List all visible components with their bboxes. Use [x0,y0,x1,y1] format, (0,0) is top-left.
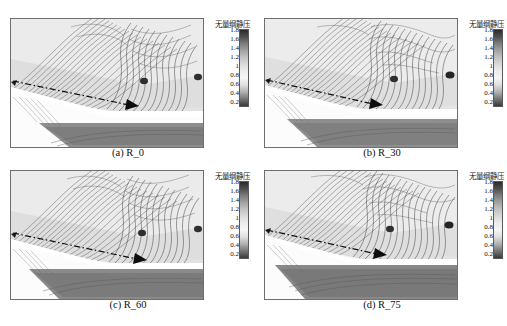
colorbar-tick: 1.8 [484,27,493,34]
colorbar-tick: 0.8 [230,224,239,231]
colorbar-tick: 1.4 [230,45,239,52]
contour-plot-a [10,18,204,148]
colorbar-tick: 1.4 [484,45,493,52]
colorbar-tick: 1 [490,63,494,70]
colorbar-tick: 1 [236,215,240,222]
figure-root: 无量纲静压 1.8 1.6 1.4 1.2 1 0.8 0.6 0.4 0 [0,0,507,326]
contour-svg-d [265,171,457,299]
colorbar-body-c: 1.8 1.6 1.4 1.2 1 0.8 0.6 0.4 0.2 [203,181,249,257]
colorbar-gradient-a [239,29,249,107]
colorbar-tick: 1.2 [484,206,493,213]
plot-area-d: 无量纲静压 1.8 1.6 1.4 1.2 1 0.8 0.6 0.4 0 [258,168,506,299]
colorbar-tick: 1.8 [230,179,239,186]
colorbar-tick: 1.8 [484,179,493,186]
colorbar-tick: 1.4 [484,197,493,204]
colorbar-tick: 0.6 [230,81,239,88]
colorbar-tick: 1.6 [230,36,239,43]
subplot-caption-c: (c) R_60 [4,299,252,310]
colorbar-a: 无量纲静压 1.8 1.6 1.4 1.2 1 0.8 0.6 0.4 0 [202,18,250,146]
colorbar-tick: 0.2 [230,251,239,258]
colorbar-tick: 1 [490,215,494,222]
subplot-grid: 无量纲静压 1.8 1.6 1.4 1.2 1 0.8 0.6 0.4 0 [0,16,507,322]
subplot-caption-d: (d) R_75 [258,299,506,310]
colorbar-tick: 0.4 [230,242,239,249]
colorbar-gradient-c [239,181,249,259]
colorbar-c: 无量纲静压 1.8 1.6 1.4 1.2 1 0.8 0.6 0.4 0 [202,170,250,298]
plot-area-c: 无量纲静压 1.8 1.6 1.4 1.2 1 0.8 0.6 0.4 0 [4,168,252,299]
subplot-panel-c: 无量纲静压 1.8 1.6 1.4 1.2 1 0.8 0.6 0.4 0 [4,168,252,316]
colorbar-ticks-b: 1.8 1.6 1.4 1.2 1 0.8 0.6 0.4 0.2 [459,27,493,107]
colorbar-tick: 1.2 [230,206,239,213]
colorbar-gradient-b [493,29,503,107]
colorbar-body-d: 1.8 1.6 1.4 1.2 1 0.8 0.6 0.4 0.2 [457,181,503,257]
colorbar-tick: 0.6 [484,233,493,240]
colorbar-ticks-a: 1.8 1.6 1.4 1.2 1 0.8 0.6 0.4 0.2 [205,27,239,107]
contour-svg-c [11,171,203,299]
colorbar-tick: 0.8 [484,72,493,79]
subplot-panel-b: 无量纲静压 1.8 1.6 1.4 1.2 1 0.8 0.6 0.4 0 [258,16,506,164]
colorbar-ticks-d: 1.8 1.6 1.4 1.2 1 0.8 0.6 0.4 0.2 [459,179,493,259]
colorbar-tick: 0.6 [230,233,239,240]
colorbar-tick: 1 [236,63,240,70]
subplot-panel-a: 无量纲静压 1.8 1.6 1.4 1.2 1 0.8 0.6 0.4 0 [4,16,252,164]
colorbar-tick: 1.2 [230,54,239,61]
colorbar-tick: 0.2 [484,99,493,106]
colorbar-tick: 1.8 [230,27,239,34]
subplot-panel-d: 无量纲静压 1.8 1.6 1.4 1.2 1 0.8 0.6 0.4 0 [258,168,506,316]
colorbar-d: 无量纲静压 1.8 1.6 1.4 1.2 1 0.8 0.6 0.4 0 [456,170,504,298]
colorbar-tick: 0.4 [484,90,493,97]
colorbar-tick: 1.6 [484,188,493,195]
contour-svg-b [265,19,457,147]
colorbar-tick: 0.4 [484,242,493,249]
colorbar-tick: 0.8 [230,72,239,79]
clipped-header-text [0,0,507,11]
subplot-caption-b: (b) R_30 [258,147,506,158]
plot-area-a: 无量纲静压 1.8 1.6 1.4 1.2 1 0.8 0.6 0.4 0 [4,16,252,147]
contour-plot-c [10,170,204,300]
colorbar-tick: 1.2 [484,54,493,61]
colorbar-body-b: 1.8 1.6 1.4 1.2 1 0.8 0.6 0.4 0.2 [457,29,503,105]
subplot-caption-a: (a) R_0 [4,147,252,158]
colorbar-tick: 0.4 [230,90,239,97]
colorbar-tick: 0.8 [484,224,493,231]
colorbar-gradient-d [493,181,503,259]
plot-area-b: 无量纲静压 1.8 1.6 1.4 1.2 1 0.8 0.6 0.4 0 [258,16,506,147]
colorbar-tick: 0.2 [484,251,493,258]
colorbar-b: 无量纲静压 1.8 1.6 1.4 1.2 1 0.8 0.6 0.4 0 [456,18,504,146]
contour-plot-b [264,18,458,148]
colorbar-body-a: 1.8 1.6 1.4 1.2 1 0.8 0.6 0.4 0.2 [203,29,249,105]
colorbar-tick: 0.2 [230,99,239,106]
contour-plot-d [264,170,458,300]
colorbar-tick: 1.6 [230,188,239,195]
colorbar-tick: 1.4 [230,197,239,204]
colorbar-tick: 1.6 [484,36,493,43]
colorbar-tick: 0.6 [484,81,493,88]
colorbar-ticks-c: 1.8 1.6 1.4 1.2 1 0.8 0.6 0.4 0.2 [205,179,239,259]
contour-svg-a [11,19,203,147]
